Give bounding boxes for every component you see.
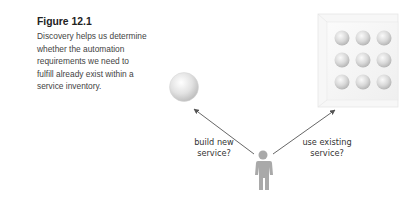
new-service-sphere-icon: [170, 73, 199, 102]
use-existing-service-label: use existing service?: [296, 137, 358, 158]
label-line: service?: [296, 148, 358, 159]
build-new-service-label: build new service?: [188, 137, 240, 158]
label-line: use existing: [296, 137, 358, 148]
label-line: service?: [188, 148, 240, 159]
label-line: build new: [188, 137, 240, 148]
service-inventory-icon: [318, 14, 398, 107]
person-icon: [255, 151, 273, 191]
diagram-canvas: [0, 0, 420, 198]
